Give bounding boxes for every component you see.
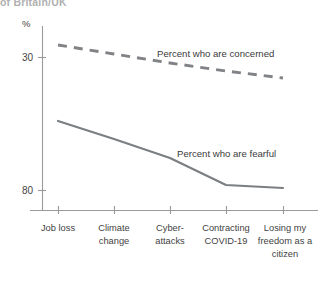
x-label-losing-freedom-line3: citizen: [272, 249, 298, 259]
x-label-cyber-attacks-line1: Cyber-: [156, 223, 184, 233]
series-annotation-concerned: Percent who are concerned: [157, 48, 274, 59]
x-label-contracting-covid-line2: COVID-19: [205, 236, 248, 246]
x-label-climate-change-line2: change: [99, 236, 130, 246]
x-label-cyber-attacks-line2: attacks: [155, 236, 185, 246]
y-tick-label-30: 80: [22, 185, 34, 196]
y-axis-title: %: [22, 18, 31, 29]
x-label-job-loss-line1: Job loss: [41, 223, 75, 233]
x-label-losing-freedom-line2: freedom as a: [258, 236, 313, 246]
chart-figure: of Britain/UK 30 80 % Percent who are co…: [0, 0, 324, 281]
x-label-climate-change-line1: Climate: [98, 223, 130, 233]
x-label-losing-freedom-line1: Losing my: [264, 223, 307, 233]
line-chart-svg: 30 80 % Percent who are concerned Percen…: [0, 0, 324, 281]
series-annotation-fearful: Percent who are fearful: [177, 148, 276, 159]
x-label-contracting-covid-line1: Contracting: [202, 223, 250, 233]
y-tick-label-80: 30: [22, 52, 34, 63]
